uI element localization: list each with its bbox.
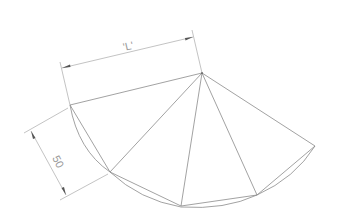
segment-dimension: 50 bbox=[24, 108, 108, 200]
chord-segments bbox=[70, 105, 315, 206]
radial-line-1 bbox=[110, 73, 202, 172]
length-dimension: 'L' bbox=[60, 30, 202, 105]
outer-arc bbox=[70, 105, 315, 208]
radial-line-3 bbox=[202, 73, 257, 195]
radial-line-4 bbox=[202, 73, 315, 146]
radial-line-2 bbox=[181, 73, 202, 206]
seam-line bbox=[70, 73, 202, 105]
length-dimension-label: 'L' bbox=[122, 39, 135, 53]
cone-development-drawing: 'L' 50 bbox=[0, 0, 341, 220]
segment-dimension-label: 50 bbox=[50, 153, 66, 169]
